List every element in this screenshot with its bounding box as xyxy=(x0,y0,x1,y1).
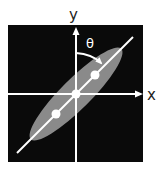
upper-point xyxy=(91,71,100,80)
angle-label: θ xyxy=(86,36,94,51)
ellipse-diagram: θ y x xyxy=(0,0,164,172)
x-axis-label: x xyxy=(147,86,156,104)
y-axis-label: y xyxy=(69,6,78,24)
lower-point xyxy=(52,110,61,119)
center-point xyxy=(72,90,81,99)
